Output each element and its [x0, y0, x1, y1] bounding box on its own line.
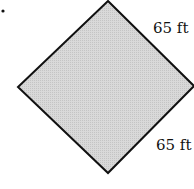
- side-length-label-lower: 65 ft: [156, 138, 191, 153]
- side-length-label-upper: 65 ft: [153, 21, 188, 36]
- bullet-dot: [1, 9, 4, 12]
